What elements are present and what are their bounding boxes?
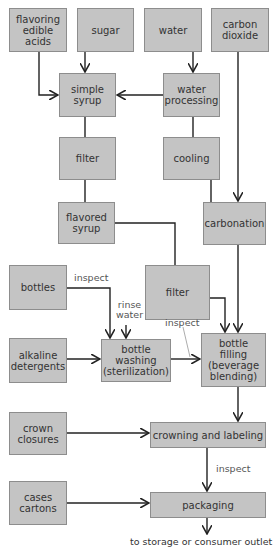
node-label: bottle washing (sterilization): [103, 344, 169, 377]
node-crowning-and-labeling: crowning and labeling: [150, 422, 266, 448]
node-cases-cartons: cases cartons: [9, 481, 67, 525]
node-label: packaging: [182, 500, 234, 511]
node-simple-syrup: simple syrup: [59, 73, 116, 117]
node-packaging: packaging: [150, 492, 266, 518]
node-filter-final: filter: [145, 265, 210, 320]
node-label: crowning and labeling: [153, 430, 263, 441]
node-label: simple syrup: [71, 84, 104, 106]
node-alkaline-detergents: alkaline detergents: [9, 338, 67, 383]
node-carbon-dioxide: carbon dioxide: [211, 8, 269, 52]
node-label: alkaline detergents: [11, 350, 65, 372]
node-bottle-washing: bottle washing (sterilization): [101, 339, 171, 382]
node-cooling: cooling: [163, 137, 220, 180]
node-filter-syrup: filter: [59, 137, 116, 180]
node-label: filter: [76, 153, 99, 164]
node-crown-closures: crown closures: [9, 412, 67, 455]
node-carbonation: carbonation: [203, 202, 266, 245]
node-flavored-syrup: flavored syrup: [58, 202, 115, 244]
node-bottle-filling: bottle filling (beverage blending): [201, 333, 266, 387]
node-label: water: [159, 25, 188, 36]
label-inspect-bottles: inspect: [74, 273, 108, 283]
node-label: bottle filling (beverage blending): [208, 338, 259, 382]
node-label: flavored syrup: [66, 212, 107, 234]
node-label: water processing: [165, 84, 219, 106]
node-water-processing: water processing: [163, 73, 220, 117]
label-rinse-water: rinse water: [116, 300, 143, 320]
label-inspect-crowning: inspect: [216, 464, 250, 474]
node-bottles: bottles: [9, 265, 67, 310]
node-label: cooling: [174, 153, 210, 164]
node-label: cases cartons: [19, 492, 56, 514]
node-label: sugar: [91, 25, 119, 36]
node-sugar: sugar: [77, 8, 134, 52]
node-water: water: [144, 8, 202, 52]
node-label: bottles: [21, 282, 55, 293]
label-outlet: to storage or consumer outlet: [130, 537, 272, 547]
node-label: flavoring edible acids: [10, 14, 66, 47]
node-label: carbonation: [205, 218, 265, 229]
node-label: crown closures: [17, 423, 58, 445]
label-inspect-washing: inspect: [165, 318, 199, 328]
node-label: filter: [166, 287, 189, 298]
node-label: carbon dioxide: [222, 19, 258, 41]
node-flavoring-edible-acids: flavoring edible acids: [9, 8, 67, 52]
